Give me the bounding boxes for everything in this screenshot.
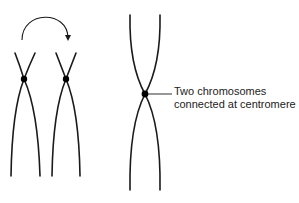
curved-arrow-icon: [22, 17, 68, 40]
combined-chromosome: [130, 15, 160, 190]
chromosome-a: [11, 53, 40, 176]
label-line-2: connected at centromere: [174, 98, 296, 111]
centromere-b: [63, 76, 69, 82]
centromere-combined: [142, 91, 149, 98]
centromere-label: Two chromosomes connected at centromere: [174, 85, 296, 111]
centromere-a: [21, 76, 27, 82]
chromosome-b: [52, 53, 80, 176]
label-line-1: Two chromosomes: [174, 85, 296, 98]
